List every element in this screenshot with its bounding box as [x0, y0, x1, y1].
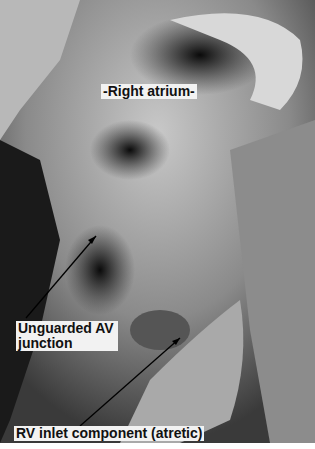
label-right-atrium: -Right atrium-: [101, 84, 197, 99]
arrowhead-av-icon: [88, 236, 96, 244]
arrow-rv-inlet: [80, 338, 180, 426]
bottom-border: [0, 443, 315, 449]
label-rv-inlet: RV inlet component (atretic): [14, 426, 204, 441]
label-av-junction: Unguarded AV junction: [16, 321, 118, 351]
arrow-overlay: [0, 0, 315, 449]
arrow-av-junction: [26, 236, 96, 318]
